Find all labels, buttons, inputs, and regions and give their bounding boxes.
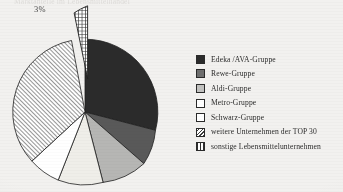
legend-item-schwarz-gruppe[interactable]: Schwarz-Gruppe [196, 110, 343, 125]
legend-item-metro-gruppe[interactable]: Metro-Gruppe [196, 96, 343, 111]
vertical-grid-swatch-icon [196, 142, 205, 151]
legend-item-label: Aldi-Gruppe [211, 85, 251, 93]
legend-item-label: weitere Unternehmen der TOP 30 [211, 128, 317, 136]
legend-item-label: Metro-Gruppe [211, 99, 256, 107]
solid-white-swatch-icon [196, 113, 205, 122]
legend-item-label: Schwarz-Gruppe [211, 114, 264, 122]
legend-item-edeka-ava-gruppe[interactable]: Edeka /AVA-Gruppe [196, 52, 343, 67]
legend-item-label: Rewe-Gruppe [211, 70, 255, 78]
legend-item-label: Edeka /AVA-Gruppe [211, 56, 276, 64]
diagonal-hatch-swatch-icon [196, 128, 205, 137]
solid-white-swatch-icon [196, 99, 205, 108]
legend-item-sonstige-lebensmittelunternehmen[interactable]: sonstige Lebensmittelunternehmen [196, 140, 343, 155]
solid-light-gray-swatch-icon [196, 84, 205, 93]
legend-item-aldi-gruppe[interactable]: Aldi-Gruppe [196, 81, 343, 96]
solid-dark-gray-swatch-icon [196, 69, 205, 78]
solid-black-swatch-icon [196, 55, 205, 64]
legend-item-weitere-unternehmen-top-30[interactable]: weitere Unternehmen der TOP 30 [196, 125, 343, 140]
legend-item-label: sonstige Lebensmittelunternehmen [211, 143, 321, 151]
pie-plot-area: 3% [0, 0, 185, 192]
legend-item-rewe-gruppe[interactable]: Rewe-Gruppe [196, 67, 343, 82]
pie-svg [0, 0, 185, 192]
pie-slices [13, 6, 158, 185]
legend: Edeka /AVA-Gruppe Rewe-Gruppe Aldi-Grupp… [196, 52, 343, 154]
slice-percent-label: 3% [34, 4, 46, 14]
pie-chart-figure: Marktanteile im Lebensmittelhandel [0, 0, 343, 192]
